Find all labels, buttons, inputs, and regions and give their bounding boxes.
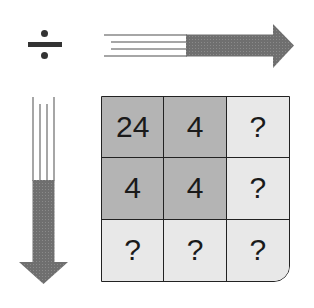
- grid-cell: 24: [102, 97, 164, 158]
- grid-cell: 4: [102, 158, 164, 219]
- right-arrow-icon: [104, 24, 294, 68]
- grid-cell: 4: [164, 97, 226, 158]
- number-grid: 24 4 ? 4 4 ? ? ? ?: [101, 96, 290, 282]
- down-arrow-icon: [19, 97, 68, 284]
- grid-cell: ?: [227, 220, 289, 281]
- grid-cell: ?: [164, 220, 226, 281]
- grid-cell: 4: [164, 158, 226, 219]
- grid-cell: ?: [227, 97, 289, 158]
- grid-cell: ?: [227, 158, 289, 219]
- grid-cell: ?: [102, 220, 164, 281]
